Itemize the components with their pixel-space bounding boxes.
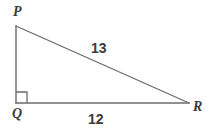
right-angle-marker-icon: [16, 92, 27, 103]
triangle-side-pr-hypotenuse: [16, 26, 189, 103]
vertex-label-p: P: [13, 5, 22, 19]
triangle-drawing: [0, 0, 218, 137]
side-length-label-base: 12: [88, 112, 104, 126]
vertex-label-q: Q: [12, 107, 22, 121]
side-length-label-hypotenuse: 13: [91, 41, 107, 55]
geometry-figure: P Q R 13 12: [0, 0, 218, 137]
vertex-label-r: R: [193, 100, 202, 114]
